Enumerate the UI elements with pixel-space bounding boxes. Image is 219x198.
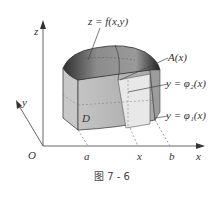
solid-body [63,45,160,130]
surface-label: z = f(x,y) [88,16,128,27]
x-axis [43,143,205,149]
x-tick-label: x [137,151,142,162]
figure-caption: 图 7 - 6 [94,172,130,182]
solid-volume-diagram [0,0,219,198]
y-axis-label: y [22,97,27,108]
origin-label: O [28,150,36,161]
z-axis-label: z [34,26,38,37]
b-tick-label: b [169,151,175,162]
z-axis [40,20,46,146]
y-axis [16,100,43,146]
diagram-figure: z y x O z = f(x,y) A(x) y = φ₂(x) y = φ₁… [0,0,219,198]
region-d-label: D [82,113,90,124]
upper-curve-label: y = φ₂(x) [166,78,206,89]
lower-curve-label: y = φ₁(x) [166,110,206,121]
cross-section-label: A(x) [168,52,187,63]
x-axis-label: x [196,151,201,162]
a-tick-label: a [84,151,90,162]
